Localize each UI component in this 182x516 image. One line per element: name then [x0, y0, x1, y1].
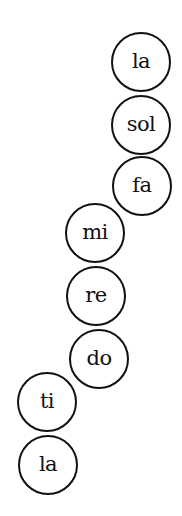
note-label: mi — [82, 222, 108, 243]
note-circle-fa: fa — [112, 156, 172, 216]
note-circle-do: do — [69, 329, 129, 389]
note-circle-sol: sol — [111, 95, 171, 155]
note-label: sol — [127, 114, 156, 135]
note-label: re — [85, 285, 106, 306]
solfege-diagram: la sol fa mi re do ti la — [0, 0, 182, 516]
note-circle-ti: ti — [17, 372, 77, 432]
note-label: fa — [132, 175, 151, 196]
note-circle-la-high: la — [111, 32, 171, 92]
note-circle-mi: mi — [65, 203, 125, 263]
note-label: la — [132, 51, 150, 72]
note-label: la — [39, 454, 57, 475]
note-circle-la-low: la — [18, 435, 78, 495]
note-label: ti — [40, 391, 54, 412]
note-label: do — [86, 348, 111, 369]
note-circle-re: re — [66, 266, 126, 326]
